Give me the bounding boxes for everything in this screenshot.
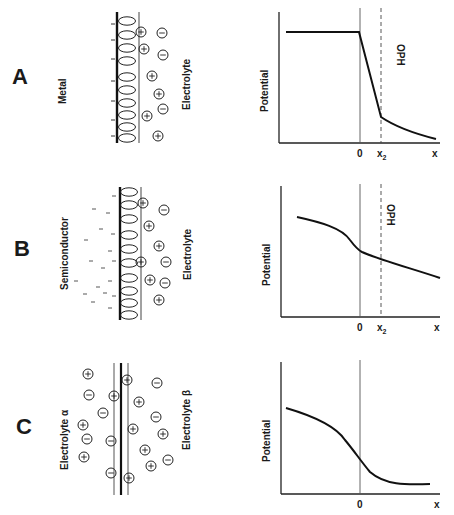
y-axis-label-b: Potential (261, 244, 272, 286)
x-tick-x2-b: x2 (377, 322, 387, 335)
electrolyte-beta-label: Electrolyte β (181, 390, 192, 450)
electrolyte-alpha-label: Electrolyte α (59, 409, 70, 470)
potential-curve-b (297, 217, 440, 278)
semiconductor-label: Semiconductor (59, 217, 70, 290)
x-tick-zero-b: 0 (357, 322, 363, 333)
x-tick-zero-c: 0 (357, 499, 363, 510)
potential-curve-c (286, 408, 430, 484)
x-tick-x2-a: x2 (377, 148, 387, 161)
metal-surface-charges (111, 24, 115, 136)
oph-label-b: OPH (385, 204, 396, 226)
potential-curve-a (286, 32, 436, 139)
interface-schematic-a (111, 12, 168, 143)
potential-graph-a: Potential OPH 0 x2 x (259, 8, 440, 161)
interface-schematic-b (74, 187, 171, 320)
x-axis-label-c: x (434, 499, 440, 510)
panel-letter-b: B (14, 236, 30, 261)
electrolyte-label-b: Electrolyte (182, 228, 193, 280)
y-axis-label-c: Potential (261, 420, 272, 462)
interface-schematic-c (78, 363, 173, 495)
panel-letter-c: C (16, 414, 32, 439)
oph-label-a: OPH (395, 44, 406, 66)
metal-label: Metal (57, 78, 68, 104)
potential-graph-b: Potential OPH 0 x2 x (261, 184, 440, 335)
electrolyte-label-a: Electrolyte (181, 58, 192, 110)
x-tick-zero-a: 0 (357, 148, 363, 159)
ions-c (78, 369, 173, 483)
x-axis-label-b: x (434, 322, 440, 333)
x-axis-label-a: x (432, 148, 438, 159)
panel-c: C Electrolyte α Electrolyte β Potential (16, 360, 440, 510)
figure: A Metal Electrolyte (0, 0, 454, 515)
y-axis-label-a: Potential (259, 70, 270, 112)
panel-b: B Semiconductor Electrolyte (14, 184, 440, 335)
potential-graph-c: Potential 0 x (261, 360, 440, 510)
water-dipoles-b (121, 188, 138, 319)
panel-letter-a: A (12, 64, 28, 89)
ions-a (136, 27, 168, 141)
space-charge-electrons (74, 196, 116, 308)
panel-a: A Metal Electrolyte (12, 8, 440, 161)
water-dipoles-a (119, 17, 136, 142)
